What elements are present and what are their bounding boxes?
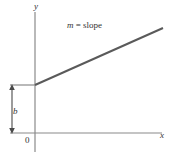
- slope-equation-text: = slope: [74, 20, 103, 30]
- slope-intercept-diagram: y x 0 b m = slope: [0, 0, 170, 160]
- slope-line: [35, 28, 163, 85]
- origin-label: 0: [25, 136, 30, 145]
- intercept-label: b: [13, 107, 18, 116]
- x-axis-label: x: [160, 131, 164, 140]
- slope-annotation: m = slope: [67, 21, 102, 30]
- y-axis-label: y: [34, 2, 38, 11]
